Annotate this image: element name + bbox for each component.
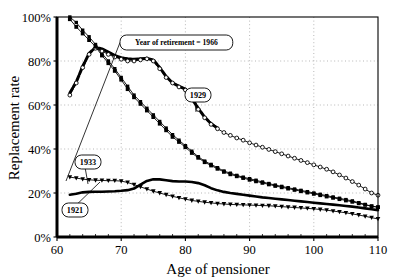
callout-label: 1929 <box>190 91 206 100</box>
x-tick-label: 100 <box>304 243 323 257</box>
y-tick-label: 0% <box>34 231 51 245</box>
callout-label: 1921 <box>67 206 83 215</box>
x-tick-label: 80 <box>179 243 192 257</box>
y-tick-label: 40% <box>28 143 51 157</box>
y-tick-label: 60% <box>28 99 51 113</box>
y-tick-label: 100% <box>22 11 51 25</box>
callout-label: 1933 <box>80 158 96 167</box>
x-tick-label: 90 <box>243 243 256 257</box>
x-tick-label: 60 <box>51 243 64 257</box>
x-tick-label: 110 <box>369 243 387 257</box>
y-axis-label: Replacement rate <box>6 75 22 180</box>
replacement-rate-line-chart: 0%20%40%60%80%100%60708090100110 Year of… <box>0 0 400 280</box>
chart-figure: 0%20%40%60%80%100%60708090100110 Year of… <box>0 0 400 280</box>
x-tick-label: 70 <box>115 243 128 257</box>
y-tick-label: 80% <box>28 55 51 69</box>
callout-label: Year of retirement = 1966 <box>135 38 218 47</box>
y-tick-label: 20% <box>28 187 51 201</box>
x-axis-label: Age of pensioner <box>166 261 269 277</box>
